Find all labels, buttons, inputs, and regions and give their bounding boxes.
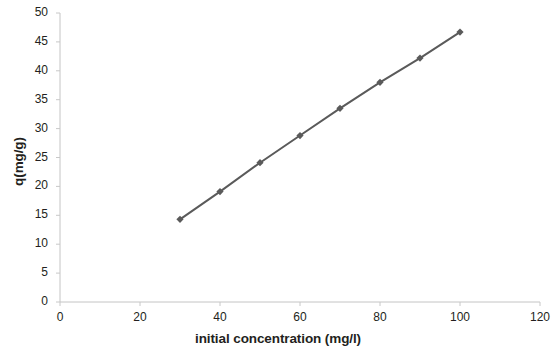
x-tick-label: 0 (40, 310, 80, 324)
x-tick-label: 20 (120, 310, 160, 324)
y-tick-label: 50 (14, 5, 48, 19)
y-tick-label: 0 (14, 294, 48, 308)
x-tick-label: 120 (520, 310, 556, 324)
x-axis-title: initial concentration (mg/l) (0, 331, 556, 346)
x-tick-label: 100 (440, 310, 480, 324)
y-tick-label: 40 (14, 63, 48, 77)
y-axis-tick-marks (56, 13, 60, 302)
x-tick-label: 40 (200, 310, 240, 324)
chart-container: 05101520253035404550 020406080100120 q(m… (0, 0, 556, 354)
y-axis-title: q(mg/g) (11, 102, 26, 222)
x-axis-tick-marks (60, 302, 540, 306)
series-markers-q (176, 28, 463, 222)
y-tick-label: 5 (14, 265, 48, 279)
x-tick-label: 60 (280, 310, 320, 324)
y-tick-label: 10 (14, 236, 48, 250)
y-tick-label: 45 (14, 34, 48, 48)
chart-plot-area (0, 0, 556, 354)
x-tick-label: 80 (360, 310, 400, 324)
